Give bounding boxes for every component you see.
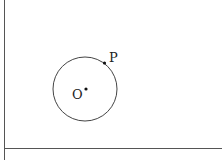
- center-point-o: [84, 87, 87, 90]
- label-p: P: [109, 50, 118, 65]
- point-p: [103, 61, 106, 64]
- geometry-diagram: O P: [0, 0, 222, 160]
- label-o: O: [72, 87, 83, 102]
